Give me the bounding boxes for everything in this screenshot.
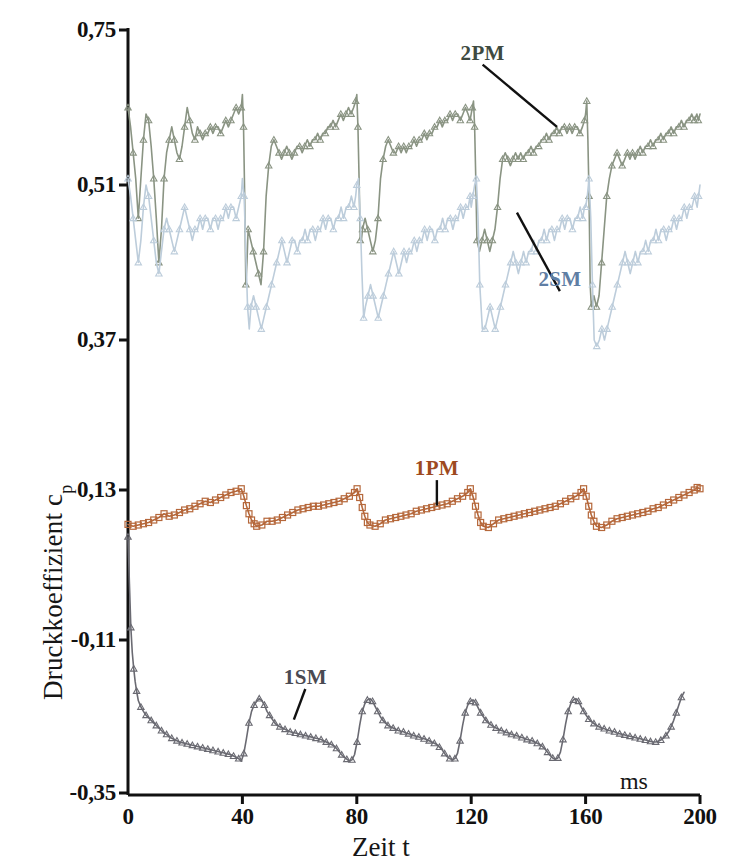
leader-line-1sm <box>294 689 305 720</box>
series-label-2pm: 2PM <box>461 40 505 65</box>
chart-figure: Druckkoeffizient cp 0,750,510,370,13-0,1… <box>0 0 756 865</box>
leader-line-2pm <box>483 65 557 127</box>
x-axis-unit-label: ms <box>620 768 648 795</box>
y-axis-tick-label: 0,75 <box>24 17 116 43</box>
annotation-leaders <box>294 65 560 720</box>
series-line <box>128 537 684 761</box>
series-2pm <box>125 95 702 310</box>
series-line <box>128 179 700 347</box>
y-axis-tick-label: -0,11 <box>24 627 116 653</box>
plot-canvas <box>0 0 756 865</box>
y-axis-tick-label: 0,37 <box>24 327 116 353</box>
x-axis-title: Zeit t <box>352 832 410 863</box>
y-axis-tick-label: -0,35 <box>24 780 116 806</box>
series-label-1sm: 1SM <box>284 664 327 689</box>
x-axis-tick-label: 80 <box>346 804 368 830</box>
x-axis-tick-label: 200 <box>683 804 717 830</box>
x-axis-tick-label: 160 <box>569 804 603 830</box>
series-1sm <box>125 534 685 763</box>
data-series <box>125 95 703 763</box>
y-axis-tick-label: 0,13 <box>24 477 116 503</box>
x-axis-tick-label: 40 <box>231 804 253 830</box>
x-axis-tick-label: 120 <box>454 804 488 830</box>
x-axis-tick-label: 0 <box>122 804 133 830</box>
series-2sm <box>125 175 702 348</box>
series-label-1pm: 1PM <box>415 456 459 481</box>
y-axis-tick-label: 0,51 <box>24 172 116 198</box>
series-1pm <box>125 485 703 531</box>
series-label-2sm: 2SM <box>538 267 581 292</box>
